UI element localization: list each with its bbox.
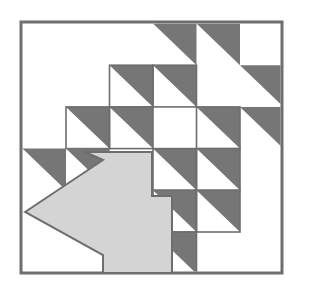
emblem-canvas: Diagonal tiled square with southwest arr…: [0, 0, 310, 294]
emblem-graphic: [0, 0, 310, 294]
